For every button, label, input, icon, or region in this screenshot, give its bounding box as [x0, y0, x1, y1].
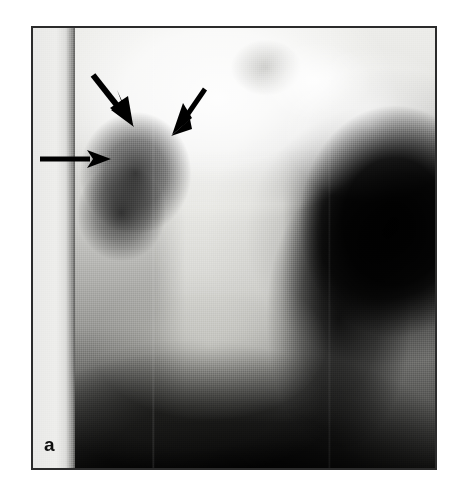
left-hilar-opacity — [33, 28, 435, 468]
annotation-arrow-2-icon — [171, 89, 205, 136]
radiograph-image: a — [33, 28, 435, 468]
scan-seam-lines — [33, 28, 435, 468]
mediastinal-column — [33, 28, 435, 468]
aortic-arch-highlight — [33, 28, 435, 468]
xray-base-field — [33, 28, 435, 468]
diaphragm-shadow — [33, 28, 435, 468]
rib-arc-highlight — [33, 28, 435, 468]
right-dark-mass — [33, 28, 435, 468]
annotation-arrow-overlay — [33, 28, 435, 468]
figure-panel: a — [0, 0, 465, 493]
left-collimation-strip — [33, 28, 75, 468]
panel-letter: a — [44, 435, 55, 454]
annotation-arrow-1-icon — [93, 75, 134, 127]
radiograph-frame: a — [31, 26, 437, 470]
halftone-texture — [33, 28, 435, 468]
